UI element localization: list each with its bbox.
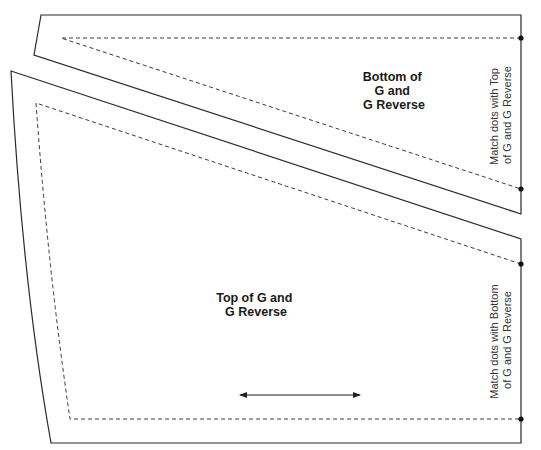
bottom-piece-label-line: G and <box>375 84 410 98</box>
top-piece-label: Top of G and G Reverse <box>216 291 296 319</box>
match-dot <box>518 416 523 421</box>
match-dot <box>518 186 523 191</box>
top-piece-seam-line <box>36 103 521 419</box>
bottom-piece-note-line: of G and G Reverse <box>501 66 513 164</box>
top-piece-cutting-line <box>11 71 521 443</box>
match-dot <box>518 261 523 266</box>
top-piece: Top of G and G Reverse Match dots with B… <box>11 71 524 443</box>
bottom-piece-label: Bottom of G and G Reverse <box>363 70 426 112</box>
pattern-diagram: Bottom of G and G Reverse Match dots wit… <box>0 0 541 450</box>
bottom-piece-seam-line <box>61 38 521 189</box>
top-piece-label-line: G Reverse <box>225 305 287 319</box>
top-piece-match-note: Match dots with Bottom of G and G Revers… <box>488 281 513 398</box>
bottom-piece-match-note: Match dots with Top of G and G Reverse <box>488 65 513 165</box>
bottom-piece-label-line: Bottom of <box>363 70 423 84</box>
top-piece-note-line: Match dots with Bottom <box>488 284 500 398</box>
top-piece-note-line: of G and G Reverse <box>501 291 513 389</box>
bottom-piece-label-line: G Reverse <box>363 98 425 112</box>
match-dot <box>518 35 523 40</box>
bottom-piece-note-line: Match dots with Top <box>488 68 500 165</box>
top-piece-label-line: Top of G and <box>216 291 292 305</box>
bottom-piece: Bottom of G and G Reverse Match dots wit… <box>34 15 524 214</box>
bottom-piece-cutting-line <box>34 15 521 214</box>
